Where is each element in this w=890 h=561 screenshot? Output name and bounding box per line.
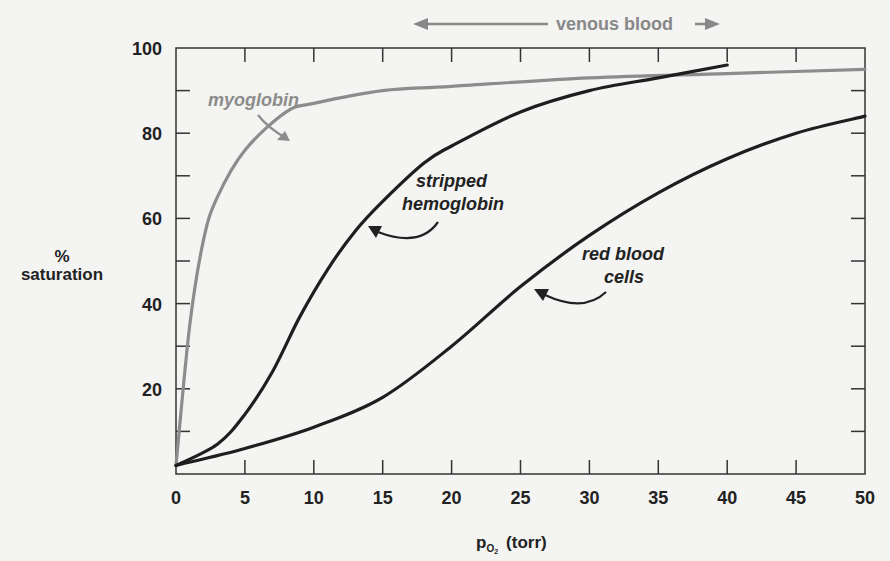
y-tick-label: 20 <box>142 380 162 400</box>
x-tick-label: 15 <box>373 488 393 508</box>
myoglobin-curve <box>176 69 865 465</box>
stripped-hemoglobin-arrow-icon <box>378 222 438 238</box>
venous-blood-label: venous blood <box>556 14 673 34</box>
red-blood-cells-curve <box>176 116 865 465</box>
y-axis-title-saturation: saturation <box>21 265 103 284</box>
x-tick-label: 30 <box>579 488 599 508</box>
myoglobin-label: myoglobin <box>208 90 299 110</box>
x-tick-label: 20 <box>442 488 462 508</box>
stripped-hemoglobin-label-line1: stripped <box>416 171 488 191</box>
stripped-hemoglobin-curve <box>176 65 727 465</box>
curves <box>176 65 865 465</box>
rbc-label-line1: red blood <box>582 244 665 264</box>
y-axis-title-percent: % <box>54 247 69 266</box>
y-tick-label: 60 <box>142 209 162 229</box>
venous-blood-annotation: venous blood <box>413 14 720 34</box>
oxygen-saturation-chart: 0510152025303540455020406080100 venous b… <box>0 0 890 561</box>
rbc-arrow-icon <box>545 292 606 303</box>
y-tick-label: 100 <box>132 39 162 59</box>
x-tick-label: 25 <box>510 488 530 508</box>
x-tick-label: 40 <box>717 488 737 508</box>
x-tick-label: 10 <box>304 488 324 508</box>
y-tick-label: 40 <box>142 295 162 315</box>
x-tick-label: 0 <box>171 488 181 508</box>
x-tick-label: 50 <box>855 488 875 508</box>
x-axis-title: pO2(torr) <box>476 533 547 555</box>
stripped-hemoglobin-label-line2: hemoglobin <box>402 194 504 214</box>
x-tick-label: 45 <box>786 488 806 508</box>
rbc-label-line2: cells <box>604 267 644 287</box>
myoglobin-arrow-icon <box>258 115 286 138</box>
x-tick-label: 5 <box>240 488 250 508</box>
x-tick-label: 35 <box>648 488 668 508</box>
y-tick-label: 80 <box>142 124 162 144</box>
